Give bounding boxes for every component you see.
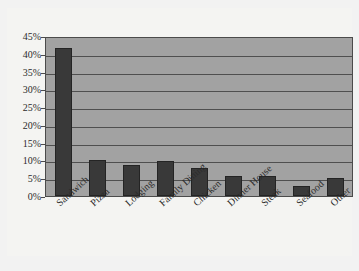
chart-canvas: 45%40%35%30%25%20%15%10%5%0% SandwichPiz… bbox=[7, 8, 352, 256]
y-axis-tick-label: 10% bbox=[23, 156, 41, 166]
y-axis-tick-label: 15% bbox=[23, 139, 41, 149]
y-axis-tick-label: 40% bbox=[23, 50, 41, 60]
bar-chart-figure: 45%40%35%30%25%20%15%10%5%0% SandwichPiz… bbox=[0, 0, 359, 271]
y-axis-tick-label: 45% bbox=[23, 32, 41, 42]
y-axis-tick-label: 0% bbox=[28, 192, 41, 202]
y-axis-tick-label: 30% bbox=[23, 85, 41, 95]
y-axis-tick-label: 25% bbox=[23, 103, 41, 113]
y-axis-tick-label: 20% bbox=[23, 121, 41, 131]
y-axis-tick-label: 35% bbox=[23, 68, 41, 78]
x-axis: SandwichPizzaLodgingFamily DiningChicken… bbox=[45, 198, 353, 256]
bar bbox=[55, 48, 72, 196]
y-axis-tick-label: 5% bbox=[28, 174, 41, 184]
y-axis: 45%40%35%30%25%20%15%10%5%0% bbox=[7, 30, 45, 204]
